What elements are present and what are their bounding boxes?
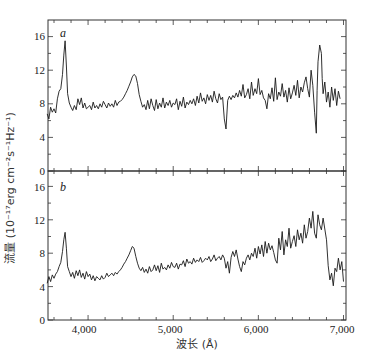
spectrum-line-b <box>47 211 343 285</box>
x-tick-4000: 4,000 <box>72 323 97 335</box>
y-tick-a-8: 8 <box>40 97 46 109</box>
x-tick-7000: 7,000 <box>330 323 355 335</box>
x-tick-6000: 6,000 <box>244 323 269 335</box>
y-tick-b-8: 8 <box>40 247 46 259</box>
axis-ticks <box>48 20 346 320</box>
y-tick-a-0: 0 <box>40 165 46 177</box>
y-tick-b-16: 16 <box>34 181 46 193</box>
y-tick-b-12: 12 <box>34 214 45 226</box>
x-tick-labels: 4,000 5,000 6,000 7,000 <box>72 323 355 335</box>
y-tick-a-4: 4 <box>40 131 46 143</box>
y-tick-labels-b: 0 4 8 12 16 <box>34 181 46 326</box>
y-axis-title: 流量 (10⁻¹⁷erg cm⁻²s⁻¹Hz⁻¹) <box>3 112 17 263</box>
spectrum-figure: a b 0 4 8 12 16 0 4 8 12 16 4,000 5,000 … <box>0 0 369 362</box>
spectrum-line-a <box>47 41 340 133</box>
y-tick-labels-a: 0 4 8 12 16 <box>34 30 46 177</box>
x-tick-5000: 5,000 <box>158 323 183 335</box>
panel-a-label: a <box>60 26 66 40</box>
y-tick-a-12: 12 <box>34 64 45 76</box>
y-tick-b-4: 4 <box>40 281 46 293</box>
panel-b-label: b <box>60 180 66 194</box>
y-tick-a-16: 16 <box>34 30 46 42</box>
panel-b-frame <box>48 171 346 320</box>
panel-a-frame <box>48 20 346 171</box>
y-tick-b-0: 0 <box>40 314 46 326</box>
x-axis-title: 波长 (Å) <box>176 338 218 351</box>
